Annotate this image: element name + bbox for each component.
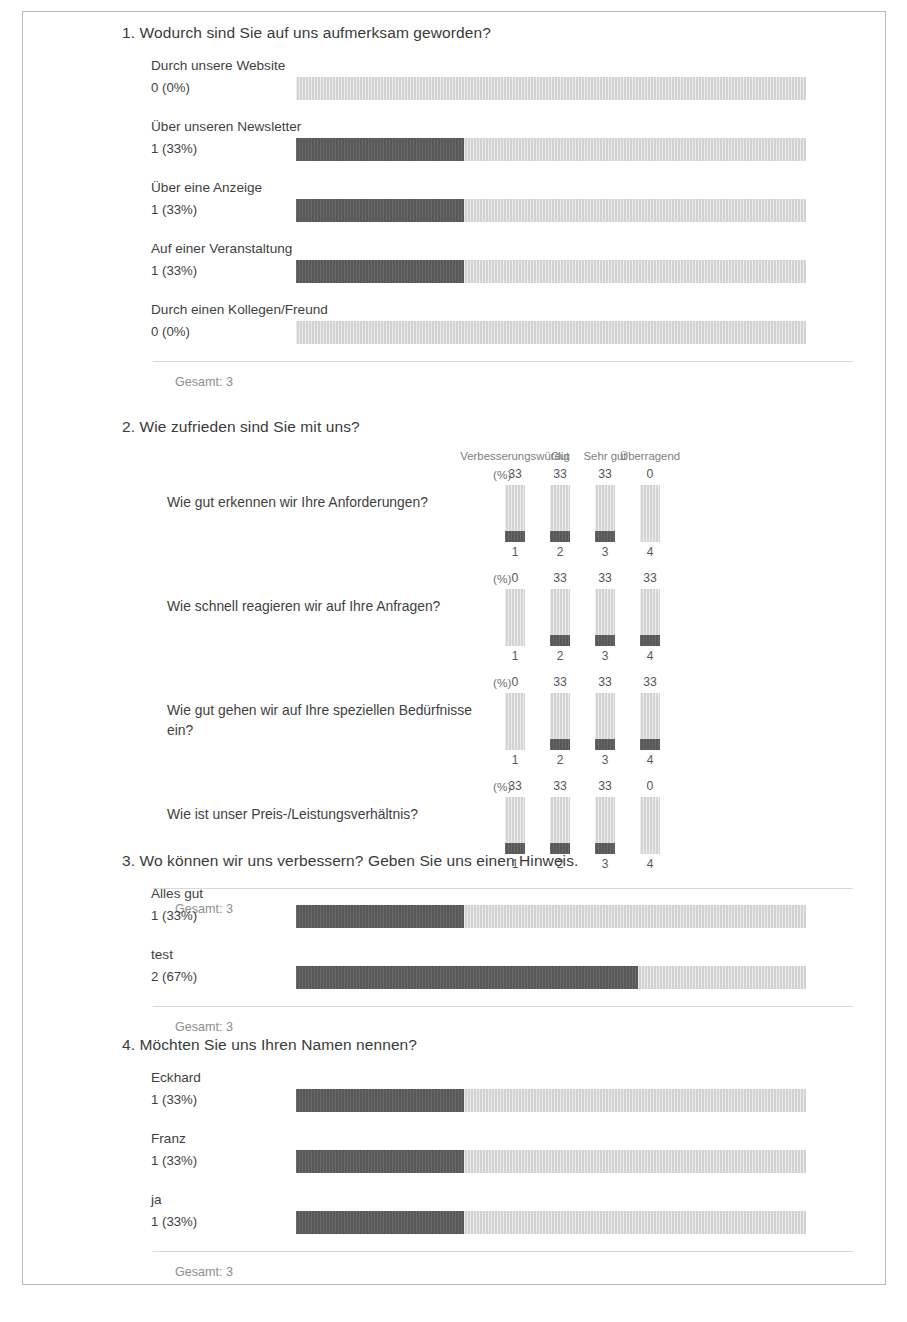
matrix-bar-fill <box>595 531 615 542</box>
option-label: Alles gut <box>151 886 885 901</box>
matrix-column: 01 <box>503 570 527 664</box>
option-bar-line: 1 (33%) <box>151 1211 885 1235</box>
matrix-column: 331 <box>503 466 527 560</box>
option-list-q4: Eckhard1 (33%)Franz1 (33%)ja1 (33%) <box>23 1070 885 1235</box>
matrix-cell-value: 0 <box>638 778 662 794</box>
option-bar-line: 1 (33%) <box>151 1150 885 1174</box>
matrix-cell-value: 0 <box>503 570 527 586</box>
matrix-column: 01 <box>503 674 527 768</box>
option-bar-line: 0 (0%) <box>151 77 885 101</box>
matrix-column: 332 <box>548 466 572 560</box>
matrix-row: Wie gut erkennen wir Ihre Anforderungen?… <box>151 466 885 570</box>
matrix-bar-fill <box>550 635 570 646</box>
option-bar-fill <box>296 1089 464 1112</box>
matrix-row-question: Wie gut gehen wir auf Ihre speziellen Be… <box>167 700 487 740</box>
option-bar-line: 0 (0%) <box>151 321 885 345</box>
matrix-column-index: 4 <box>638 753 662 768</box>
matrix-bar-track <box>640 797 660 854</box>
matrix-cell-value: 33 <box>593 674 617 690</box>
matrix-bar-fill <box>550 531 570 542</box>
option-count-value: 1 (33%) <box>151 141 281 156</box>
option-bar-fill <box>296 905 464 928</box>
matrix-cell-value: 33 <box>548 570 572 586</box>
option-bar-track <box>296 966 806 989</box>
matrix-bar-fill <box>640 635 660 646</box>
question-total: Gesamt: 3 <box>175 1252 885 1279</box>
matrix-column: 332 <box>548 570 572 664</box>
question-title-q3: 3. Wo können wir uns verbessern? Geben S… <box>122 852 885 870</box>
option-row: test2 (67%) <box>23 947 885 990</box>
matrix-cell-value: 33 <box>503 778 527 794</box>
option-label: test <box>151 947 885 962</box>
option-label: Durch unsere Website <box>151 58 885 73</box>
option-bar-track <box>296 199 806 222</box>
matrix-cell-value: 0 <box>503 674 527 690</box>
matrix-column-index: 1 <box>503 649 527 664</box>
matrix-column: 333 <box>593 674 617 768</box>
option-count-value: 1 (33%) <box>151 908 281 923</box>
matrix-bar-fill <box>505 531 525 542</box>
option-bar-track <box>296 260 806 283</box>
question-block-q1: 1. Wodurch sind Sie auf uns aufmerksam g… <box>23 24 885 389</box>
matrix-column-index: 2 <box>548 753 572 768</box>
option-bar-fill <box>296 1211 464 1234</box>
question-title-q4: 4. Möchten Sie uns Ihren Namen nennen? <box>122 1036 885 1054</box>
option-count-value: 1 (33%) <box>151 1214 281 1229</box>
matrix-cell-value: 33 <box>593 778 617 794</box>
matrix-column-index: 3 <box>593 753 617 768</box>
option-bar-track <box>296 138 806 161</box>
matrix-bar-track <box>595 693 615 750</box>
matrix-column-index: 2 <box>548 649 572 664</box>
option-bar-fill <box>296 199 464 222</box>
option-label: Franz <box>151 1131 885 1146</box>
option-bar-track <box>296 77 806 100</box>
option-bar-line: 1 (33%) <box>151 199 885 223</box>
option-count-value: 1 (33%) <box>151 263 281 278</box>
matrix-bar-track <box>640 485 660 542</box>
option-bar-track <box>296 1089 806 1112</box>
matrix-bar-track <box>640 589 660 646</box>
option-row: Über unseren Newsletter1 (33%) <box>23 119 885 162</box>
option-label: Über unseren Newsletter <box>151 119 885 134</box>
matrix-bar-track <box>505 797 525 854</box>
matrix-cell-value: 33 <box>548 466 572 482</box>
survey-report-body: 1. Wodurch sind Sie auf uns aufmerksam g… <box>23 12 885 1284</box>
matrix-bar-track <box>550 589 570 646</box>
option-row: Über eine Anzeige1 (33%) <box>23 180 885 223</box>
option-count-value: 0 (0%) <box>151 324 281 339</box>
matrix-column: 332 <box>548 674 572 768</box>
option-row: Auf einer Veranstaltung1 (33%) <box>23 241 885 284</box>
matrix-bar-fill <box>550 739 570 750</box>
option-row: Eckhard1 (33%) <box>23 1070 885 1113</box>
option-bar-line: 2 (67%) <box>151 966 885 990</box>
matrix-column-index: 1 <box>503 753 527 768</box>
matrix-column-index: 3 <box>593 545 617 560</box>
matrix-cell-value: 33 <box>548 674 572 690</box>
question-title-q1: 1. Wodurch sind Sie auf uns aufmerksam g… <box>122 24 885 42</box>
option-bar-line: 1 (33%) <box>151 1089 885 1113</box>
report-page-frame: 1. Wodurch sind Sie auf uns aufmerksam g… <box>22 11 886 1285</box>
matrix-cell-value: 33 <box>638 570 662 586</box>
matrix-column-index: 2 <box>548 545 572 560</box>
question-title-q2: 2. Wie zufrieden sind Sie mit uns? <box>122 418 885 436</box>
matrix-cell-value: 33 <box>638 674 662 690</box>
option-bar-track <box>296 321 806 344</box>
matrix-bar-fill <box>595 739 615 750</box>
matrix-column-index: 3 <box>593 649 617 664</box>
option-row: Durch unsere Website0 (0%) <box>23 58 885 101</box>
matrix-column: 333 <box>593 466 617 560</box>
matrix-cell-value: 33 <box>593 466 617 482</box>
matrix-bar-track <box>505 485 525 542</box>
matrix-row: Wie schnell reagieren wir auf Ihre Anfra… <box>151 570 885 674</box>
option-label: Durch einen Kollegen/Freund <box>151 302 885 317</box>
option-bar-track <box>296 905 806 928</box>
matrix-bar-track <box>550 485 570 542</box>
question-block-q2: 2. Wie zufrieden sind Sie mit uns?Verbes… <box>23 418 885 916</box>
option-count-value: 1 (33%) <box>151 1153 281 1168</box>
option-bar-line: 1 (33%) <box>151 138 885 162</box>
matrix-q2: VerbesserungswürdigGutSehr gutÜberragend… <box>23 450 885 882</box>
option-bar-track <box>296 1150 806 1173</box>
matrix-bar-track <box>550 693 570 750</box>
matrix-column-index: 4 <box>638 545 662 560</box>
option-bar-fill <box>296 1150 464 1173</box>
